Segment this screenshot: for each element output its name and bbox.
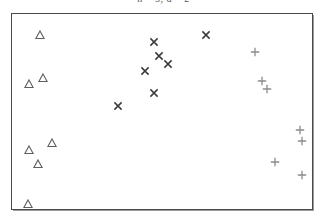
data-point-triangle-icon bbox=[46, 137, 57, 148]
data-point-plus-icon bbox=[262, 84, 273, 95]
data-point-plus-icon bbox=[297, 135, 308, 146]
data-point-plus-icon bbox=[270, 157, 281, 168]
data-point-x-icon bbox=[200, 29, 211, 40]
data-point-triangle-icon bbox=[34, 29, 45, 40]
data-point-x-icon bbox=[140, 66, 151, 77]
data-point-triangle-icon bbox=[22, 199, 33, 210]
chart-title: n = 5, d = 2 bbox=[0, 0, 327, 4]
data-point-x-icon bbox=[149, 88, 160, 99]
data-point-plus-icon bbox=[295, 124, 306, 135]
data-point-x-icon bbox=[113, 101, 124, 112]
data-point-triangle-icon bbox=[23, 144, 34, 155]
data-point-x-icon bbox=[149, 36, 160, 47]
data-point-plus-icon bbox=[297, 170, 308, 181]
scatter-plot-figure: n = 5, d = 2 bbox=[0, 0, 327, 223]
data-point-triangle-icon bbox=[23, 79, 34, 90]
data-point-triangle-icon bbox=[37, 73, 48, 84]
data-point-plus-icon bbox=[250, 46, 261, 57]
data-point-triangle-icon bbox=[32, 159, 43, 170]
plot-area bbox=[11, 13, 313, 210]
data-point-x-icon bbox=[162, 59, 173, 70]
